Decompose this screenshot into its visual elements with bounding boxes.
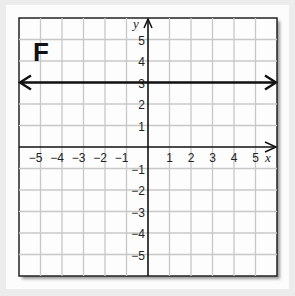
x-tick-label: 3 bbox=[209, 151, 216, 165]
x-axis-label: x bbox=[264, 150, 271, 165]
x-tick-label: −4 bbox=[50, 151, 64, 165]
x-tick-label: 1 bbox=[166, 151, 173, 165]
y-tick-label: −3 bbox=[131, 206, 145, 220]
coordinate-plane: −5−4−3−2−11234554321−1−2−3−4−5 F y x bbox=[0, 0, 295, 296]
y-tick-label: 2 bbox=[138, 98, 145, 112]
x-tick-label: 2 bbox=[188, 151, 195, 165]
y-tick-label: −5 bbox=[131, 249, 145, 263]
y-tick-label: 5 bbox=[138, 34, 145, 48]
x-tick-label: −3 bbox=[72, 151, 86, 165]
y-tick-label: −1 bbox=[131, 163, 145, 177]
x-tick-label: 5 bbox=[252, 151, 259, 165]
x-tick-label: −2 bbox=[93, 151, 107, 165]
y-tick-label: −4 bbox=[131, 227, 145, 241]
panel-label: F bbox=[33, 37, 49, 67]
x-tick-label: −1 bbox=[115, 151, 129, 165]
y-axis-label: y bbox=[131, 16, 139, 31]
y-tick-label: 1 bbox=[138, 120, 145, 134]
x-tick-label: −5 bbox=[29, 151, 43, 165]
x-tick-label: 4 bbox=[231, 151, 238, 165]
y-tick-label: 4 bbox=[138, 55, 145, 69]
y-tick-label: −2 bbox=[131, 184, 145, 198]
